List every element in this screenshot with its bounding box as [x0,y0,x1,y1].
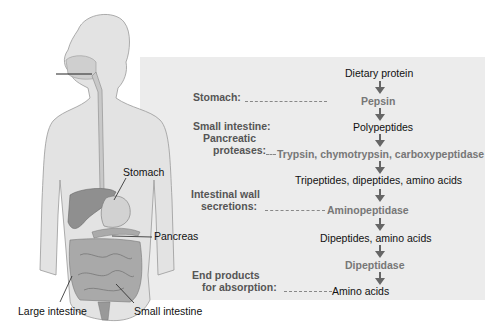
large-intestine-label: Large intestine [18,305,87,317]
leader-absorption [284,291,332,292]
site-label-stomach: Stomach: [193,91,241,103]
site-label-pancreatic: Pancreatic [203,132,256,144]
enzyme-aminopeptidase: Aminopeptidase [327,204,409,216]
site-label-small-intestine: Small intestine: [193,120,271,132]
arrow-down-icon [374,108,386,121]
site-label-secretions: secretions: [201,200,257,212]
substance-tripeptides: Tripeptides, dipeptides, amino acids [295,174,462,186]
substance-polypeptides: Polypeptides [353,121,413,133]
leader-secretions [265,210,325,211]
site-label-end-products: End products [192,269,260,281]
arrow-down-icon [374,189,386,202]
site-label-intestinal-wall: Intestinal wall [191,188,260,200]
enzyme-dipeptidase: Dipeptidase [345,259,405,271]
arrow-down-icon [374,134,386,147]
site-label-proteases: proteases: [213,144,266,156]
arrow-down-icon [374,161,386,174]
substance-amino-acids: Amino acids [332,285,389,297]
enzyme-pancreatic-proteases: Trypsin, chymotrypsin, carboxypeptidase [277,148,484,160]
leader-proteases [266,154,276,155]
arrow-down-icon [374,218,386,231]
stomach-organ-label: Stomach [123,166,164,178]
arrow-down-icon [374,81,386,94]
substance-dietary-protein: Dietary protein [345,67,413,79]
enzyme-pepsin: Pepsin [361,95,395,107]
arrow-down-icon [374,272,386,285]
pancreas-organ-label: Pancreas [154,230,198,242]
site-label-for-absorption: for absorption: [202,281,277,293]
substance-dipeptides: Dipeptides, amino acids [320,232,431,244]
small-intestine-label: Small intestine [134,305,202,317]
arrow-down-icon [374,245,386,258]
leader-stomach [245,101,327,102]
